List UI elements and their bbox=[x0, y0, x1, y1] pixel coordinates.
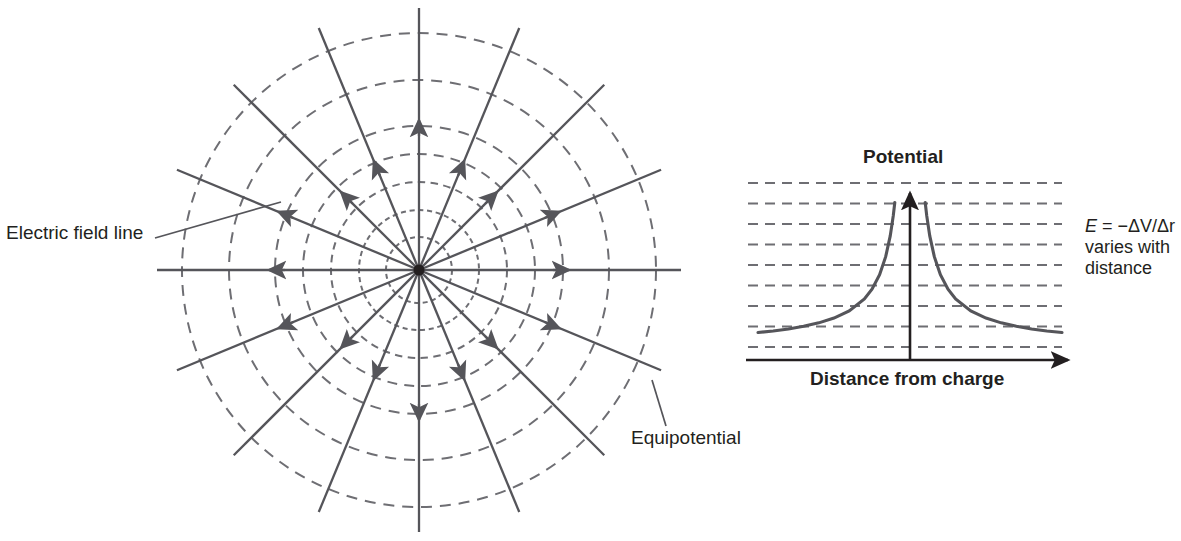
field-direction-arrow bbox=[374, 161, 380, 176]
graph-equipotential-gridlines bbox=[748, 183, 1062, 347]
leader-equipotential bbox=[652, 380, 666, 426]
potential-curve-right-branch bbox=[925, 202, 1062, 332]
electric-field-line bbox=[234, 85, 416, 267]
formula-note-line-1: varies with bbox=[1085, 237, 1177, 258]
field-direction-arrow bbox=[545, 212, 560, 218]
formula-symbol-E: E bbox=[1085, 216, 1097, 236]
electric-field-line bbox=[421, 28, 520, 266]
label-equipotential: Equipotential bbox=[631, 427, 741, 449]
graph-x-axis-label: Distance from charge bbox=[810, 368, 1004, 390]
electric-field-line bbox=[421, 274, 520, 512]
field-direction-arrow bbox=[458, 364, 464, 379]
graph-title-potential: Potential bbox=[863, 146, 943, 168]
electric-field-line bbox=[319, 274, 418, 512]
electric-field-line bbox=[422, 273, 604, 455]
electric-field-line bbox=[423, 170, 661, 269]
formula-annotation: E = −ΔV/Δr varies with distance bbox=[1085, 216, 1177, 280]
potential-curve-left-branch bbox=[758, 202, 895, 332]
field-direction-arrow bbox=[485, 336, 496, 347]
field-direction-arrow bbox=[485, 192, 496, 203]
electric-field-line bbox=[422, 85, 604, 267]
field-direction-arrow bbox=[458, 161, 464, 176]
field-direction-arrow bbox=[341, 192, 352, 203]
electric-field-line bbox=[319, 28, 418, 266]
physics-figure bbox=[0, 0, 1181, 541]
leader-electric-field-line bbox=[155, 202, 281, 238]
electric-field-line bbox=[234, 273, 416, 455]
electric-field-diagram bbox=[157, 8, 681, 532]
electric-field-line bbox=[177, 272, 415, 371]
electric-field-line bbox=[177, 170, 415, 269]
label-electric-field-line: Electric field line bbox=[6, 222, 143, 244]
potential-graph bbox=[746, 183, 1068, 360]
electric-field-line bbox=[423, 272, 661, 371]
field-direction-arrow bbox=[341, 336, 352, 347]
formula-note-line-2: distance bbox=[1085, 258, 1177, 279]
formula-body: = −ΔV/Δr bbox=[1097, 216, 1175, 236]
field-direction-arrow bbox=[374, 364, 380, 379]
point-charge-marker bbox=[414, 265, 425, 276]
formula-expression: E = −ΔV/Δr bbox=[1085, 216, 1177, 237]
